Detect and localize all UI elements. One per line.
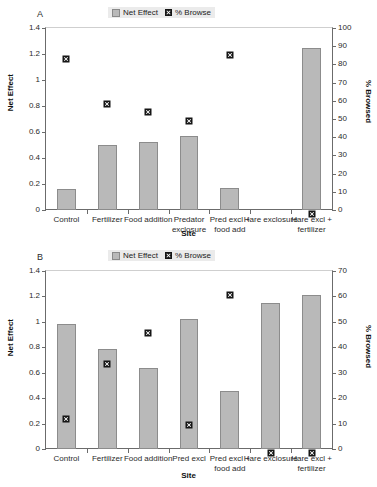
x-axis-title-b: Site: [0, 471, 377, 480]
y-tick-left: [42, 106, 46, 107]
y-axis-title-left-a: Net Effect: [6, 74, 15, 111]
y-tick-right: [332, 210, 336, 211]
y-tick-label-right: 70: [338, 267, 347, 275]
percent-browse-marker: [145, 108, 152, 115]
percent-browse-marker: [186, 117, 193, 124]
y-tick-label-left: 1.4: [29, 24, 40, 32]
plot-area-b: 00.20.40.60.811.21.4010203040506070Contr…: [45, 270, 333, 449]
y-tick-label-right: 20: [338, 394, 347, 402]
y-tick-right: [332, 271, 336, 272]
y-tick-left: [42, 132, 46, 133]
y-tick-label-right: 90: [338, 42, 347, 50]
x-tick: [250, 449, 251, 453]
bar: [180, 136, 199, 210]
percent-browse-marker: [104, 360, 111, 367]
y-tick-label-left: 1.2: [29, 292, 40, 300]
legend-entry-net-effect-b: Net Effect: [112, 251, 158, 260]
percent-browse-marker: [145, 330, 152, 337]
y-tick-right: [332, 174, 336, 175]
chart-panel-b: B Net Effect % Browse Net Effect % Brows…: [0, 243, 377, 487]
bar: [302, 48, 321, 211]
x-tick: [128, 449, 129, 453]
percent-browse-marker: [226, 52, 233, 59]
bar: [302, 295, 321, 449]
y-tick-label-right: 30: [338, 151, 347, 159]
legend-bar-swatch-icon: [112, 252, 120, 260]
x-tick: [209, 210, 210, 214]
y-axis-title-right-b: % Browsed: [364, 325, 373, 368]
x-tick: [209, 449, 210, 453]
y-tick-label-right: 100: [338, 24, 351, 32]
bar: [57, 189, 76, 210]
y-tick-left: [42, 449, 46, 450]
y-tick-left: [42, 54, 46, 55]
y-tick-label-left: 1.2: [29, 50, 40, 58]
x-tick: [169, 449, 170, 453]
x-tick: [291, 449, 292, 453]
y-tick-label-right: 50: [338, 318, 347, 326]
y-tick-right: [332, 398, 336, 399]
legend-label-net-effect: Net Effect: [123, 8, 158, 17]
y-tick-label-left: 0: [36, 445, 40, 453]
y-tick-label-right: 80: [338, 60, 347, 68]
y-tick-right: [332, 119, 336, 120]
y-tick-left: [42, 322, 46, 323]
x-axis-title-a: Site: [0, 229, 377, 238]
legend-marker-swatch-icon: [165, 9, 172, 16]
y-tick-left: [42, 28, 46, 29]
legend-label-net-effect: Net Effect: [123, 251, 158, 260]
bar: [261, 303, 280, 449]
y-tick-right: [332, 137, 336, 138]
y-tick-right: [332, 155, 336, 156]
y-tick-label-right: 60: [338, 97, 347, 105]
percent-browse-marker: [63, 55, 70, 62]
y-tick-label-left: 0.6: [29, 128, 40, 136]
y-tick-right: [332, 449, 336, 450]
bar: [180, 319, 199, 449]
legend-label-percent-browse: % Browse: [175, 251, 211, 260]
x-tick: [87, 210, 88, 214]
y-tick-right: [332, 296, 336, 297]
y-tick-label-right: 40: [338, 133, 347, 141]
y-tick-label-left: 0.4: [29, 154, 40, 162]
y-tick-left: [42, 210, 46, 211]
percent-browse-marker: [186, 421, 193, 428]
y-tick-left: [42, 158, 46, 159]
y-tick-label-right: 40: [338, 343, 347, 351]
y-tick-label-right: 60: [338, 292, 347, 300]
y-tick-label-right: 0: [338, 206, 342, 214]
x-tick: [250, 210, 251, 214]
x-tick: [128, 210, 129, 214]
y-tick-left: [42, 271, 46, 272]
y-tick-left: [42, 296, 46, 297]
bar: [139, 142, 158, 210]
bar: [220, 391, 239, 449]
y-tick-label-left: 0.4: [29, 394, 40, 402]
y-axis-title-right-a: % Browsed: [364, 80, 373, 123]
bar: [98, 145, 117, 210]
y-tick-label-left: 0: [36, 206, 40, 214]
y-tick-label-right: 10: [338, 188, 347, 196]
y-tick-label-right: 30: [338, 369, 347, 377]
y-tick-label-right: 10: [338, 420, 347, 428]
legend-a: Net Effect % Browse: [108, 7, 215, 18]
y-tick-left: [42, 80, 46, 81]
legend-bar-swatch-icon: [112, 9, 120, 17]
legend-entry-percent-browse-a: % Browse: [165, 8, 211, 17]
y-tick-right: [332, 28, 336, 29]
y-tick-right: [332, 373, 336, 374]
y-tick-label-right: 0: [338, 445, 342, 453]
x-tick: [169, 210, 170, 214]
chart-panel-a: A Net Effect % Browse Net Effect % Brows…: [0, 0, 377, 243]
y-tick-right: [332, 322, 336, 323]
y-tick-left: [42, 424, 46, 425]
y-tick-label-left: 0.8: [29, 343, 40, 351]
y-tick-label-left: 1: [36, 318, 40, 326]
panel-letter-a: A: [37, 9, 43, 19]
y-tick-right: [332, 83, 336, 84]
percent-browse-marker: [226, 291, 233, 298]
y-tick-left: [42, 184, 46, 185]
percent-browse-marker: [63, 416, 70, 423]
y-tick-label-left: 0.2: [29, 420, 40, 428]
y-tick-label-right: 50: [338, 115, 347, 123]
